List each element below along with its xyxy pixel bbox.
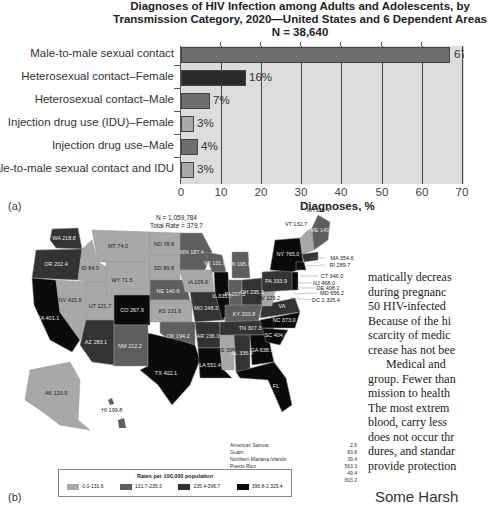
label-ne: NE 140.6	[157, 288, 180, 294]
y-tick	[174, 111, 180, 112]
bar-idu-female	[181, 116, 194, 132]
label-mo: MO 248.3	[194, 305, 218, 311]
label-fl: FL	[273, 383, 279, 389]
category-label: Male-to-male sexual contact and IDU	[0, 162, 174, 174]
legend-swatch	[178, 484, 190, 490]
label-wv: WV 129.2	[256, 295, 280, 301]
label-ok: OK 194.2	[166, 333, 189, 339]
label-mi: MI 195.8	[229, 261, 250, 267]
legend-swatch	[67, 484, 79, 490]
label-vt: VT 132.7	[285, 221, 307, 227]
x-tick-label: 40	[335, 186, 348, 198]
label-ga: GA 638.5	[251, 347, 274, 353]
label-la: LA 551.4	[199, 362, 221, 368]
x-tick-label: 0	[178, 186, 184, 198]
y-tick	[174, 134, 180, 135]
label-wi: WI 131.9	[204, 260, 226, 266]
label-nc: NC 373.0	[272, 317, 295, 323]
body-text: matically decreas during pregnanc 50 HIV…	[368, 270, 488, 473]
label-nm: NM 212.2	[118, 343, 142, 349]
value-label: 3%	[197, 117, 214, 129]
gridline	[261, 46, 262, 184]
value-label: 4%	[201, 140, 218, 152]
chart-subtitle: N = 38,640	[100, 26, 491, 39]
legend-title: Rates per 100,000 population	[59, 473, 291, 479]
label-sc: SC 404.0	[265, 332, 288, 338]
bar-idu-male	[181, 139, 198, 155]
label-nv: NV 415.8	[59, 297, 82, 303]
bar-heterosexual-female	[181, 70, 246, 86]
legend-swatch	[237, 484, 249, 490]
value-label: 67%	[454, 48, 464, 60]
bar-heterosexual-male	[181, 93, 210, 109]
state-ak	[25, 362, 90, 430]
label-ct: CT 346.0	[321, 273, 344, 279]
label-ny: NY 765.0	[277, 251, 300, 257]
value-label: 7%	[213, 94, 230, 106]
label-ks: KS 131.6	[159, 308, 182, 314]
label-tx: TX 402.1	[155, 370, 177, 376]
label-mt: MT 74.0	[108, 243, 128, 249]
category-label: Injection drug use (IDU)–Female	[8, 116, 174, 128]
legend-item: 235.4-396.7	[178, 483, 220, 490]
label-ky: KY 203.8	[233, 311, 256, 317]
gridline	[221, 46, 222, 184]
y-tick	[174, 157, 180, 158]
panel-label-b: (b)	[8, 491, 21, 503]
chart-title: Diagnoses of HIV Infection among Adults …	[100, 0, 491, 39]
label-wa: WA 218.8	[52, 235, 76, 241]
territory-row: Guam83.8	[230, 449, 357, 456]
label-md: MD 656.2	[320, 290, 344, 296]
label-mn: MN 187.4	[180, 249, 204, 255]
gridline	[462, 46, 463, 184]
value-label: 3%	[197, 163, 214, 175]
x-tick-label: 70	[456, 186, 469, 198]
state-nj	[292, 272, 298, 290]
label-ak: AK 120.9	[45, 390, 68, 396]
label-va: VA	[279, 303, 286, 309]
label-ma: MA 354.6	[330, 255, 353, 261]
territory-row: American Samoa2.6	[230, 442, 357, 449]
state-hi	[118, 418, 126, 428]
bar-male-to-male	[181, 47, 450, 63]
category-label: Heterosexual contact–Female	[21, 70, 174, 82]
value-label: 16%	[249, 71, 272, 83]
gridline	[382, 46, 383, 184]
label-ut: UT 121.7	[89, 303, 112, 309]
label-nd: ND 78.6	[154, 241, 174, 247]
us-choropleth-map: WA 218.8 OR 202.4 CA 401.1 NV 415.8 ID 8…	[0, 205, 360, 440]
label-me: ME 140.5	[310, 227, 334, 233]
bar-msm-idu	[181, 162, 194, 178]
x-tick-label: 60	[416, 186, 429, 198]
y-tick	[174, 65, 180, 66]
category-label: Male-to-male sexual contact	[30, 47, 174, 59]
label-hi: HI 199.8	[102, 407, 123, 413]
state-ma	[302, 252, 318, 262]
legend-swatch	[120, 484, 132, 490]
label-nh: NH 110.4	[307, 207, 330, 213]
label-sd: SD 89.8	[154, 265, 174, 271]
x-tick-label: 30	[295, 186, 308, 198]
gridline	[422, 46, 423, 184]
bar-plot-area: 67% 16% 7% 3% 4% 3%	[180, 46, 464, 184]
x-tick-label: 10	[215, 186, 228, 198]
legend-item: 396.8-2,325.4	[237, 483, 283, 490]
gridline	[301, 46, 302, 184]
label-az: AZ 283.1	[85, 339, 107, 345]
gridline	[341, 46, 342, 184]
label-dc: DC 2,325.4	[312, 297, 340, 303]
y-tick	[174, 88, 180, 89]
category-label: Heterosexual contact–Male	[35, 93, 174, 105]
section-heading: Some Harsh	[375, 488, 458, 505]
label-ri: RI 289.7	[330, 262, 351, 268]
x-tick-label: 20	[255, 186, 268, 198]
x-tick-label: 50	[376, 186, 389, 198]
label-pa: PA 333.9	[265, 278, 287, 284]
label-id: ID 84.0	[81, 265, 99, 271]
category-label: Injection drug use–Male	[52, 139, 174, 151]
label-ca: CA 401.1	[37, 315, 60, 321]
label-wy: WY 71.5	[112, 277, 133, 283]
territory-row: Northern Mariana Islands39.4	[230, 456, 357, 463]
label-co: CO 267.9	[120, 307, 144, 313]
legend-item: 131.7-235.3	[120, 483, 162, 490]
